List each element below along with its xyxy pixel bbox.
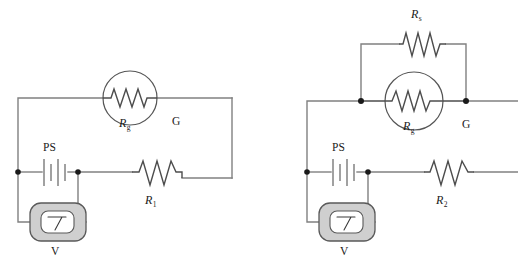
left-rg-sub: g [127, 123, 131, 132]
right-rs-main: R [411, 7, 418, 21]
left-power-supply-label: PS [43, 142, 56, 154]
right-top-rail-left-segment [307, 101, 361, 172]
left-galvanometer-symbol-label: G [172, 116, 180, 128]
right-node-positive [365, 169, 371, 175]
right-r2-main: R [436, 193, 443, 207]
left-circuit-group [15, 71, 232, 241]
right-rg-main: R [403, 119, 410, 133]
left-galvanometer-resistor-zigzag [103, 89, 157, 107]
left-voltmeter-label: V [51, 246, 59, 258]
circuit-diagram-canvas: Rg G PS V R1 Rs Rg G PS V R2 [0, 0, 518, 269]
left-node-negative [15, 169, 21, 175]
right-shunt-resistor-label: Rs [411, 8, 421, 20]
left-r1-label: R1 [145, 194, 156, 206]
right-rs-sub: s [419, 14, 422, 23]
right-power-supply-label: PS [332, 142, 345, 154]
right-r2-sub: 2 [444, 200, 448, 209]
right-galvanometer-resistance-label: Rg [403, 120, 414, 132]
circuit-drawing [0, 0, 518, 269]
right-r2-label: R2 [436, 194, 447, 206]
right-shunt-left-lead [361, 44, 399, 101]
left-top-rail-left-segment [18, 98, 103, 172]
right-rg-sub: g [411, 126, 415, 135]
left-rg-main: R [119, 116, 126, 130]
right-node-negative [304, 169, 310, 175]
left-galvanometer-resistance-label: Rg [119, 117, 130, 129]
right-galvanometer-symbol-label: G [462, 119, 470, 131]
left-r1-resistor-zigzag [132, 161, 182, 185]
right-node-galvanometer-right [463, 98, 469, 104]
right-voltmeter-face [330, 211, 363, 233]
right-shunt-resistor-zigzag [399, 33, 446, 56]
right-circuit-group [304, 33, 518, 241]
right-voltmeter-label: V [340, 246, 348, 258]
right-galvanometer-resistor-zigzag [361, 91, 466, 111]
right-shunt-right-lead [446, 44, 466, 101]
left-r1-main: R [145, 193, 152, 207]
left-voltmeter-face [41, 211, 74, 233]
left-node-positive [75, 169, 81, 175]
right-node-galvanometer-left [358, 98, 364, 104]
right-r2-resistor-zigzag [424, 161, 474, 185]
left-r1-sub: 1 [153, 200, 157, 209]
